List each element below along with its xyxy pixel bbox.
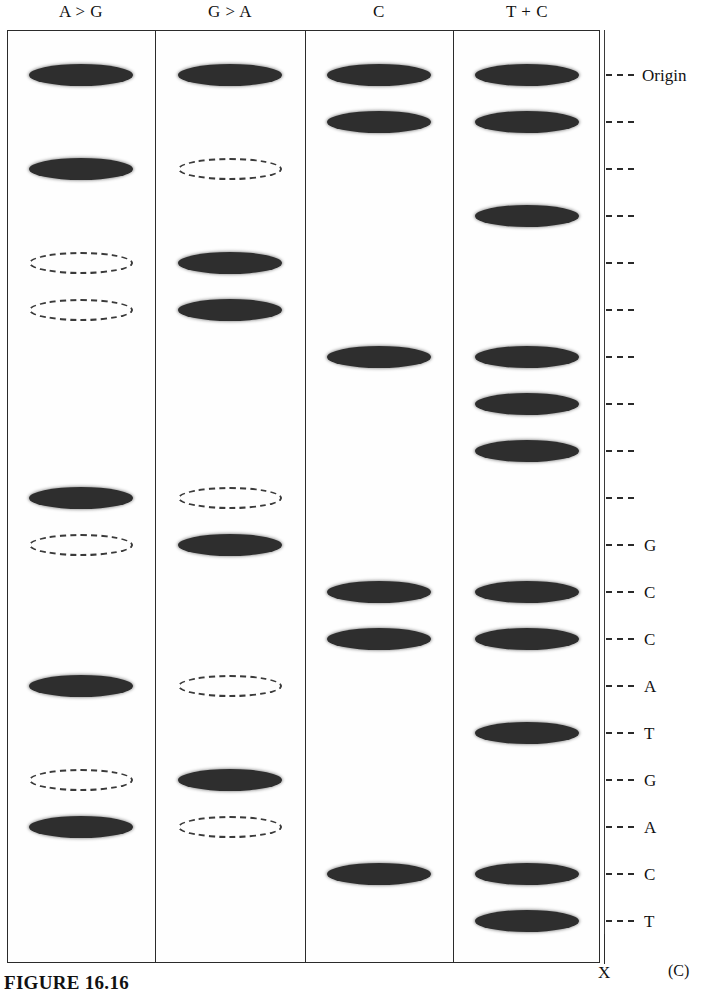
scale-tick: [606, 74, 634, 76]
lane-header-2: C: [327, 2, 431, 22]
gel-band-strong: [327, 863, 431, 885]
gel-band-strong: [475, 346, 579, 368]
scale-tick: [606, 732, 634, 734]
scale-tick: [606, 309, 634, 311]
base-call-label: C: [644, 584, 655, 601]
gel-band-strong: [29, 675, 133, 697]
scale-tick: [606, 497, 634, 499]
gel-band-strong: [327, 111, 431, 133]
gel-band-strong: [29, 487, 133, 509]
gel-band-strong: [29, 64, 133, 86]
scale-tick: [606, 779, 634, 781]
gel-band-strong: [475, 205, 579, 227]
scale-tick: [606, 826, 634, 828]
scale-tick: [606, 121, 634, 123]
gel-band-faint: [29, 299, 133, 321]
gel-band-strong: [327, 346, 431, 368]
origin-label: Origin: [642, 67, 686, 84]
gel-band-strong: [29, 816, 133, 838]
gel-band-strong: [178, 534, 282, 556]
lane-header-1: G > A: [178, 2, 282, 22]
gel-band-faint: [29, 252, 133, 274]
gel-band-strong: [29, 158, 133, 180]
gel-band-strong: [475, 64, 579, 86]
scale-tick: [606, 591, 634, 593]
lane-header-3: T + C: [475, 2, 579, 22]
base-call-label: C: [644, 866, 655, 883]
base-call-label: A: [644, 678, 656, 695]
gel-band-strong: [475, 440, 579, 462]
scale-tick: [606, 873, 634, 875]
gel-band-strong: [475, 393, 579, 415]
figure-root: A > G G > A C T + C OriginGCCATGACT X (C…: [0, 0, 719, 991]
gel-band-strong: [475, 111, 579, 133]
panel-label: (C): [668, 962, 689, 980]
scale-tick: [606, 638, 634, 640]
lane-divider-3: [453, 30, 454, 963]
gel-lane-a-gt-g: [29, 30, 133, 963]
scale-tick: [606, 356, 634, 358]
x-marker-stem: [604, 934, 605, 964]
lane-divider-1: [155, 30, 156, 963]
gel-band-strong: [327, 581, 431, 603]
figure-caption: FIGURE 16.16: [4, 972, 129, 991]
migration-scale-axis: [604, 30, 605, 963]
gel-band-strong: [475, 581, 579, 603]
base-call-label: T: [644, 725, 654, 742]
gel-band-strong: [178, 64, 282, 86]
gel-band-faint: [178, 816, 282, 838]
scale-tick: [606, 403, 634, 405]
gel-lane-c: [327, 30, 431, 963]
gel-band-faint: [178, 487, 282, 509]
gel-lane-g-gt-a: [178, 30, 282, 963]
gel-band-strong: [327, 64, 431, 86]
gel-band-strong: [178, 252, 282, 274]
gel-band-strong: [475, 863, 579, 885]
gel-band-strong: [475, 910, 579, 932]
base-call-label: A: [644, 819, 656, 836]
lane-divider-2: [305, 30, 306, 963]
base-call-label: T: [644, 913, 654, 930]
gel-band-strong: [475, 628, 579, 650]
scale-tick: [606, 168, 634, 170]
gel-band-strong: [178, 299, 282, 321]
gel-band-faint: [178, 675, 282, 697]
gel-band-faint: [178, 158, 282, 180]
scale-tick: [606, 544, 634, 546]
gel-band-strong: [178, 769, 282, 791]
scale-tick: [606, 920, 634, 922]
gel-lane-t-plus-c: [475, 30, 579, 963]
gel-band-faint: [29, 769, 133, 791]
scale-tick: [606, 215, 634, 217]
gel-band-strong: [475, 722, 579, 744]
base-call-label: C: [644, 631, 655, 648]
scale-tick: [606, 685, 634, 687]
scale-tick: [606, 450, 634, 452]
scale-tick: [606, 262, 634, 264]
gel-band-faint: [29, 534, 133, 556]
base-call-label: G: [644, 772, 656, 789]
base-call-label: G: [644, 537, 656, 554]
gel-band-strong: [327, 628, 431, 650]
lane-header-0: A > G: [29, 2, 133, 22]
x-marker-label: X: [598, 963, 610, 983]
